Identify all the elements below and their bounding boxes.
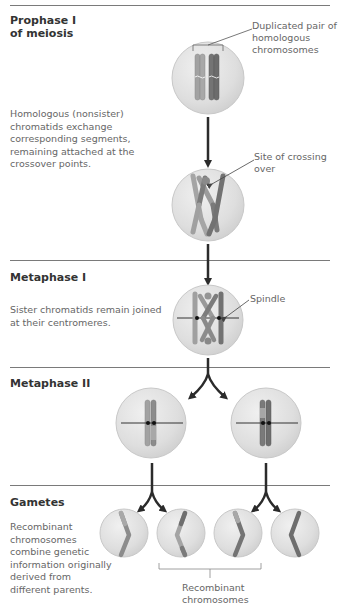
prophase-heading-line1: Prophase I [10,14,76,27]
label-line: homologous [252,32,337,44]
split-arrows-gametes [140,463,278,510]
description-line: information originally [10,559,112,572]
gametes-description: Recombinant chromosomes combine genetic … [10,521,112,596]
leader-line-duplicated-pair [208,29,252,45]
description-line: Sister chromatids remain joined [10,304,162,317]
description-line: Recombinant [10,521,112,534]
metaphase2-heading: Metaphase II [10,377,90,390]
label-duplicated-pair: Duplicated pair of homologous chromosome… [252,20,337,56]
description-line: combine genetic [10,546,112,559]
gamete-cell-2 [157,509,205,557]
description-line: at their centromeres. [10,317,162,330]
label-line: Duplicated pair of [252,20,337,32]
description-line: crossover points. [10,158,134,171]
metaphase2-cell-left [116,388,186,458]
description-line: corresponding segments, [10,133,134,146]
crossing-over-cell [172,160,254,241]
description-line: chromosomes [10,534,112,547]
prophase-heading: Prophase I of meiosis [10,14,76,40]
metaphase1-heading: Metaphase I [10,271,86,284]
meiosis-crossing-over-diagram: Prophase I of meiosis Duplicated pair of… [0,0,344,615]
centromere-left [195,316,199,320]
metaphase1-cell [173,285,249,355]
recombinant-bracket [159,563,261,578]
label-recombinant-chromosomes: Recombinant chromosomes [182,582,249,606]
description-line: derived from [10,571,112,584]
metaphase1-description: Sister chromatids remain joined at their… [10,304,162,329]
label-line: Recombinant [182,582,249,594]
prophase-description: Homologous (nonsister) chromatids exchan… [10,108,134,171]
label-line: chromosomes [182,594,249,606]
gametes-heading: Gametes [10,496,65,509]
description-line: different parents. [10,584,112,597]
label-line: chromosomes [252,44,337,56]
description-line: remaining attached at the [10,146,134,159]
description-line: Homologous (nonsister) [10,108,134,121]
prophase-cell [172,29,252,114]
prophase-heading-line2: of meiosis [10,27,76,40]
centromere-right [217,316,221,320]
description-line: chromatids exchange [10,121,134,134]
label-crossing-over: Site of crossing over [254,151,344,175]
gamete-cell-3 [214,509,262,557]
split-arrow-metaphase2 [191,358,225,397]
label-spindle: Spindle [250,293,285,305]
cell-membrane [172,42,244,114]
gamete-cell-4 [271,509,319,557]
metaphase2-cell-right [231,388,301,458]
